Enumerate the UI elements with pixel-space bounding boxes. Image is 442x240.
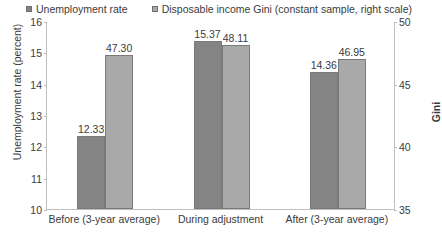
legend-label: Disposable income Gini (constant sample,… bbox=[162, 3, 412, 15]
y-axis-tick-label: 16 bbox=[30, 17, 42, 27]
bar-value-label: 47.30 bbox=[99, 43, 139, 54]
legend-label: Unemployment rate bbox=[36, 3, 128, 15]
y2-axis-tick-label: 40 bbox=[399, 142, 411, 152]
bar-gini[interactable] bbox=[338, 59, 366, 209]
bar-unemployment-rate[interactable] bbox=[310, 72, 338, 209]
bar-unemployment-rate[interactable] bbox=[77, 136, 105, 209]
bar-value-label: 48.11 bbox=[216, 33, 256, 44]
y2-axis-tick-label: 45 bbox=[399, 80, 411, 90]
y-axis-tick-mark bbox=[44, 53, 47, 54]
bar-unemployment-rate[interactable] bbox=[194, 41, 222, 209]
y2-axis-tick-mark bbox=[394, 210, 397, 211]
x-axis-category-label: After (3-year average) bbox=[285, 213, 388, 225]
y2-axis-tick-mark bbox=[394, 85, 397, 86]
y-axis-tick-mark bbox=[44, 147, 47, 148]
legend-swatch-icon bbox=[26, 6, 32, 12]
y-axis-tick-mark bbox=[44, 116, 47, 117]
bar-gini[interactable] bbox=[105, 55, 133, 209]
y2-axis-tick-mark bbox=[394, 22, 397, 23]
y-axis-tick-mark bbox=[44, 179, 47, 180]
y-axis-tick-label: 11 bbox=[31, 174, 42, 184]
y-axis-tick-label: 14 bbox=[30, 80, 42, 90]
x-axis-category-label: Before (3-year average) bbox=[48, 213, 159, 225]
plot-area: 161514131211105045403512.3347.3015.3748.… bbox=[46, 22, 395, 210]
bar-value-label: 46.95 bbox=[332, 47, 372, 58]
y-axis-tick-label: 12 bbox=[30, 142, 42, 152]
y-axis-tick-mark bbox=[44, 22, 47, 23]
y-axis-tick-label: 13 bbox=[30, 111, 42, 121]
y-axis-tick-label: 15 bbox=[30, 48, 42, 58]
y2-axis-tick-mark bbox=[394, 147, 397, 148]
x-axis-category-label: During adjustment bbox=[178, 213, 263, 225]
bar-gini[interactable] bbox=[222, 45, 250, 209]
legend-item-unemployment-rate: Unemployment rate bbox=[26, 3, 128, 15]
legend-swatch-icon bbox=[152, 6, 158, 12]
chart-legend: Unemployment rate Disposable income Gini… bbox=[0, 2, 438, 16]
y-axis-tick-label: 10 bbox=[30, 205, 42, 215]
y2-axis-tick-label: 35 bbox=[399, 205, 411, 215]
legend-item-disposable-income-gini: Disposable income Gini (constant sample,… bbox=[152, 3, 412, 15]
y2-axis-title: Gini bbox=[430, 92, 442, 132]
y2-axis-tick-label: 50 bbox=[399, 17, 411, 27]
y-axis-title: Unemployment rate (percent) bbox=[10, 0, 24, 212]
y-axis-tick-mark bbox=[44, 210, 47, 211]
y-axis-tick-mark bbox=[44, 85, 47, 86]
